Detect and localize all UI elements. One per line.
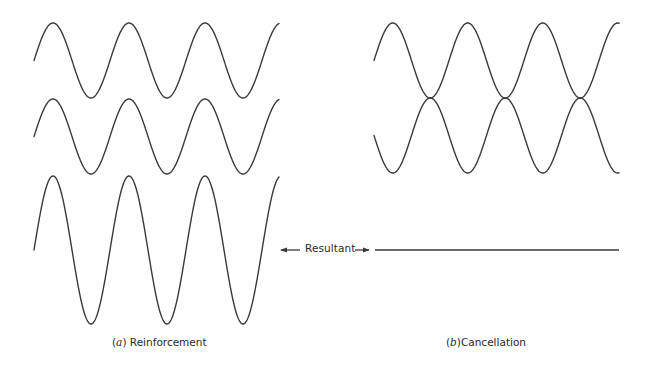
reinforcement-resultant-wave (34, 176, 279, 324)
wave-interference-diagram: Resultant (a) Reinforcement (b)Cancellat… (0, 0, 649, 368)
caption-cancellation: (b)Cancellation (446, 336, 526, 348)
arrow-left-icon (280, 248, 300, 253)
panel-cancellation (374, 23, 619, 250)
resultant-label: Resultant (305, 242, 356, 254)
caption-reinforcement: (a) Reinforcement (112, 336, 207, 348)
panel-reinforcement (34, 23, 279, 324)
caption-b-letter: b (450, 336, 457, 348)
cancellation-wave-1 (374, 23, 619, 98)
caption-b-text: Cancellation (461, 336, 526, 348)
diagram-canvas (0, 0, 649, 368)
arrow-right-icon (355, 248, 370, 253)
cancellation-wave-2 (374, 98, 619, 173)
reinforcement-wave-1 (34, 23, 279, 98)
caption-a-text: Reinforcement (130, 336, 207, 348)
reinforcement-wave-2 (34, 99, 279, 174)
